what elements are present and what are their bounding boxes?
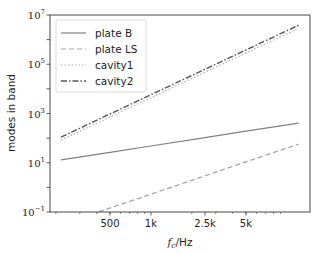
y-tick-label: 103 (28, 107, 45, 120)
legend-label: plate B (95, 27, 132, 39)
y-tick-label: 101 (28, 156, 45, 169)
y-tick-label: 105 (28, 57, 45, 70)
x-axis-label: fc/Hz (166, 236, 193, 250)
x-tick-label: 500 (100, 218, 119, 229)
y-axis: 10−1101103105107 (22, 8, 50, 218)
legend-label: plate LS (95, 43, 138, 55)
y-tick-label: 10−1 (22, 205, 45, 218)
legend-label: cavity2 (95, 75, 133, 87)
y-axis-label: modes in band (5, 74, 17, 152)
x-axis: 5001k2.5k5k (56, 212, 281, 229)
legend-label: cavity1 (95, 59, 133, 71)
x-tick-label: 1k (145, 218, 157, 229)
chart: 5001k2.5k5k 10−1101103105107 fc/Hz modes… (0, 0, 324, 254)
legend: plate Bplate LScavity1cavity2 (56, 20, 146, 92)
series-line-plate-b (61, 123, 299, 160)
x-tick-label: 5k (240, 218, 252, 229)
y-tick-label: 107 (28, 8, 45, 21)
x-tick-label: 2.5k (194, 218, 216, 229)
